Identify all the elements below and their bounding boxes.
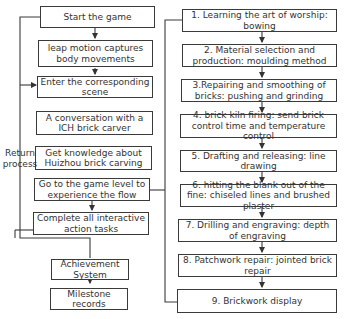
node-milestone-records: Milestone records — [50, 288, 128, 310]
step-8-patchwork: 8. Patchwork repair: jointed brick repai… — [178, 254, 337, 277]
node-leap-motion: leap motion captures body movements — [38, 40, 153, 67]
step-7-drilling: 7. Drilling and engraving: depth of engr… — [178, 219, 337, 242]
node-game-level: Go to the game level to experience the f… — [34, 178, 150, 201]
node-complete-tasks: Complete all interactive action tasks — [33, 212, 149, 235]
node-start-game: Start the game — [40, 6, 155, 28]
step-9-brickwork-display: 9. Brickwork display — [177, 289, 337, 313]
return-process-label: Return process — [2, 148, 38, 169]
node-conversation: A conversation with a ICH brick carver — [36, 111, 153, 135]
step-6-hitting-blank: 6. hitting the blank out of the fine: ch… — [180, 184, 337, 207]
step-3-repairing: 3.Repairing and smoothing of bricks: pus… — [181, 79, 337, 102]
step-2-material: 2. Material selection and production: mo… — [182, 44, 337, 67]
node-enter-scene: Enter the corresponding scene — [37, 76, 153, 98]
node-get-knowledge: Get knowledge about Huizhou brick carvin… — [35, 146, 152, 170]
step-1-worship: 1. Learning the art of worship: bowing — [182, 9, 337, 32]
step-4-kiln-firing: 4. brick kiln firing: send brick control… — [180, 114, 337, 138]
node-achievement-system: Achievement System — [51, 259, 129, 280]
step-5-drafting: 5. Drafting and releasing: line drawing — [180, 150, 337, 172]
